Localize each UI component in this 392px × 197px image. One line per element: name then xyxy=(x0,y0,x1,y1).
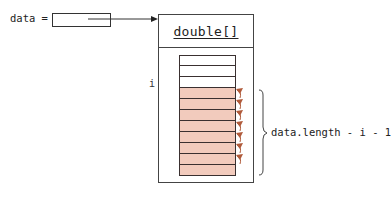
swap-arrowheads xyxy=(236,88,243,160)
diagram-overlay xyxy=(0,0,392,197)
curly-brace-icon xyxy=(259,90,267,175)
reference-arrow xyxy=(88,16,158,22)
length-expression-label: data.length - i - 1 xyxy=(271,126,391,138)
